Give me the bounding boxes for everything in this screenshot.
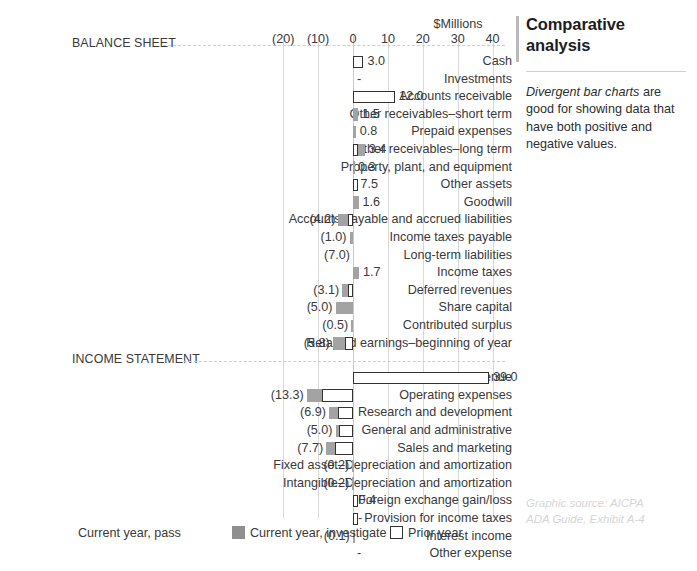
legend-item-prior[interactable]: Prior year bbox=[390, 526, 463, 544]
chart-row[interactable]: Property, plant, and equipment0.3 bbox=[0, 159, 512, 177]
row-bars: 1.5 bbox=[0, 106, 512, 124]
bar-current-year bbox=[352, 477, 354, 490]
bar-prior-year bbox=[353, 179, 358, 192]
row-bars: 0.4 bbox=[0, 492, 512, 510]
row-bars: (0.5) bbox=[0, 317, 512, 335]
bar-prior-year bbox=[335, 442, 353, 455]
chart-row[interactable]: Long-term liabilities(7.0) bbox=[0, 247, 512, 265]
chart-row[interactable]: General and administrative(5.0) bbox=[0, 422, 512, 440]
chart-row[interactable]: Accounts payable and accrued liabilities… bbox=[0, 211, 512, 229]
divergent-bar-chart: $Millions (20)(10)010203040 BALANCE SHEE… bbox=[0, 0, 512, 571]
chart-row[interactable]: Provision for income taxes- bbox=[0, 510, 512, 528]
legend-label: Prior year bbox=[408, 526, 463, 540]
row-bars: 3.4 bbox=[0, 141, 512, 159]
bar-current-year bbox=[353, 126, 356, 139]
row-bars: 7.5 bbox=[0, 176, 512, 194]
row-bars: (0.2) bbox=[0, 475, 512, 493]
row-value-label: (1.0) bbox=[321, 230, 347, 244]
bar-prior-year bbox=[348, 214, 353, 227]
chart-row[interactable]: Cash3.0 bbox=[0, 53, 512, 71]
row-value-label: (5.0) bbox=[307, 423, 333, 437]
legend-item-investigate[interactable]: Current year, investigate bbox=[232, 526, 387, 544]
row-value-label: (13.3) bbox=[271, 388, 304, 402]
chart-row[interactable]: Income taxes1.7 bbox=[0, 264, 512, 282]
bar-prior-year bbox=[353, 144, 358, 157]
comparative-analysis-panel: Comparative analysis Divergent bar chart… bbox=[516, 14, 688, 544]
section-dashed-rule bbox=[184, 361, 505, 362]
bar-prior-year bbox=[353, 495, 358, 508]
bar-prior-year bbox=[322, 389, 353, 402]
chart-row[interactable]: Share capital(5.0) bbox=[0, 299, 512, 317]
row-value-label: 0.3 bbox=[358, 160, 376, 174]
row-value-label: (0.2) bbox=[323, 458, 349, 472]
legend-item-pass[interactable]: Current year, pass bbox=[78, 526, 181, 544]
legend-swatch-investigate-icon bbox=[232, 526, 245, 539]
chart-row[interactable]: Foreign exchange gain/loss0.4 bbox=[0, 492, 512, 510]
credit-line-2: ADA Guide, Exhibit A-4 bbox=[526, 512, 696, 528]
row-bars: (7.0) bbox=[0, 247, 512, 265]
bar-prior-year bbox=[345, 337, 353, 350]
row-value-label: (7.7) bbox=[297, 441, 323, 455]
chart-row[interactable]: Investments- bbox=[0, 71, 512, 89]
side-panel-title: Comparative analysis bbox=[526, 14, 688, 55]
row-bars: 39.0 bbox=[0, 369, 512, 387]
chart-row[interactable]: Sales/revenue39.0 bbox=[0, 369, 512, 387]
chart-row[interactable]: Operating expenses(13.3) bbox=[0, 387, 512, 405]
row-bars: (0.2) bbox=[0, 457, 512, 475]
row-value-label: 0.4 bbox=[358, 493, 376, 507]
row-value-label: 12.0 bbox=[399, 89, 424, 103]
legend-swatch-prior-icon bbox=[390, 526, 403, 539]
row-value-label: 0.8 bbox=[360, 124, 378, 138]
side-panel-divider bbox=[526, 71, 686, 72]
axis-units-label: $Millions bbox=[434, 17, 483, 31]
bar-prior-year bbox=[348, 284, 353, 297]
chart-row[interactable]: Other receivables–long term3.4 bbox=[0, 141, 512, 159]
chart-row[interactable]: Other receivables–short term1.5 bbox=[0, 106, 512, 124]
section-header-0: BALANCE SHEET bbox=[0, 36, 512, 53]
row-bars: (6.9) bbox=[0, 404, 512, 422]
bar-prior-year bbox=[353, 91, 395, 104]
row-value-label: (6.9) bbox=[300, 405, 326, 419]
row-bars: (5.0) bbox=[0, 422, 512, 440]
chart-legend: Current year, passCurrent year, investig… bbox=[0, 526, 512, 548]
chart-row[interactable]: Income taxes payable(1.0) bbox=[0, 229, 512, 247]
section-header-1: INCOME STATEMENT bbox=[0, 352, 512, 369]
row-bars: (1.0) bbox=[0, 229, 512, 247]
chart-row[interactable]: Goodwill1.6 bbox=[0, 194, 512, 212]
chart-row[interactable]: Research and development(6.9) bbox=[0, 404, 512, 422]
chart-row[interactable]: Contributed surplus(0.5) bbox=[0, 317, 512, 335]
chart-row[interactable]: Deferred revenues(3.1) bbox=[0, 282, 512, 300]
row-bars: (5.0) bbox=[0, 299, 512, 317]
row-bars: (3.1) bbox=[0, 282, 512, 300]
legend-label: Current year, investigate bbox=[250, 526, 387, 540]
row-bars: (4.2) bbox=[0, 211, 512, 229]
bar-current-year bbox=[353, 267, 359, 280]
row-value-label: 3.4 bbox=[369, 142, 387, 156]
bar-current-year bbox=[353, 108, 358, 121]
bar-prior-year bbox=[353, 372, 489, 385]
row-value-label: 39.0 bbox=[493, 370, 518, 384]
row-bars: (7.7) bbox=[0, 440, 512, 458]
row-value-label: 1.6 bbox=[363, 195, 381, 209]
chart-row[interactable]: Intangible–Depreciation and amortization… bbox=[0, 475, 512, 493]
bar-current-year bbox=[352, 460, 354, 473]
chart-row[interactable]: Accounts receivable12.0 bbox=[0, 88, 512, 106]
section-label: BALANCE SHEET bbox=[72, 36, 176, 50]
row-value-label: 3.0 bbox=[367, 54, 385, 68]
credit-line-1: Graphic source: AICPA bbox=[526, 496, 696, 512]
chart-row[interactable]: Retained earnings–beginning of year(5.8) bbox=[0, 335, 512, 353]
chart-row[interactable]: Other assets7.5 bbox=[0, 176, 512, 194]
chart-row[interactable]: Sales and marketing(7.7) bbox=[0, 440, 512, 458]
row-value-label: 1.5 bbox=[362, 107, 380, 121]
row-bars: 1.7 bbox=[0, 264, 512, 282]
chart-row[interactable]: Prepaid expenses0.8 bbox=[0, 123, 512, 141]
row-value-label: (3.1) bbox=[313, 283, 339, 297]
bar-current-year bbox=[353, 161, 355, 174]
row-bars: 3.0 bbox=[0, 53, 512, 71]
plot-area: $Millions (20)(10)010203040 BALANCE SHEE… bbox=[0, 14, 512, 518]
row-value-label: (4.2) bbox=[309, 212, 335, 226]
chart-row[interactable]: Fixed asset–Depreciation and amortizatio… bbox=[0, 457, 512, 475]
row-value-label: - bbox=[357, 72, 361, 86]
row-bars: 1.6 bbox=[0, 194, 512, 212]
row-value-label: - bbox=[357, 546, 361, 560]
